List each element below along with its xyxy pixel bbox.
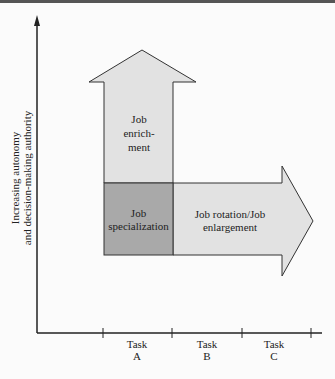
specialization-line1: Job — [131, 207, 147, 219]
job-specialization-box — [104, 183, 173, 255]
task-c-letter: C — [270, 350, 277, 362]
task-c-label: Task — [264, 338, 285, 350]
enrichment-line1: Job — [131, 113, 147, 125]
task-b-letter: B — [203, 350, 210, 362]
job-design-diagram: Job enrich- ment Job specialization Job … — [0, 0, 335, 379]
y-axis-arrow-icon — [34, 15, 40, 26]
task-a-letter: A — [133, 350, 141, 362]
specialization-line2: specialization — [108, 220, 169, 232]
enrichment-line3: ment — [128, 141, 150, 153]
task-b-label: Task — [197, 338, 218, 350]
rotation-line2: enlargement — [203, 221, 257, 233]
rotation-line1: Job rotation/Job — [195, 208, 266, 220]
enrichment-line2: enrich- — [123, 127, 154, 139]
task-a-label: Task — [127, 338, 148, 350]
y-axis-label-line2: and decision-making authority — [21, 110, 33, 245]
y-axis-label-line1: Increasing autonomy — [9, 131, 21, 224]
